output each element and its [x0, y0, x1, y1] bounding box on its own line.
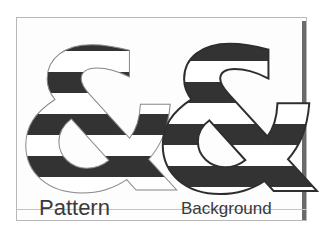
- background-label: Background: [181, 200, 272, 217]
- pattern-label: Pattern: [39, 197, 110, 219]
